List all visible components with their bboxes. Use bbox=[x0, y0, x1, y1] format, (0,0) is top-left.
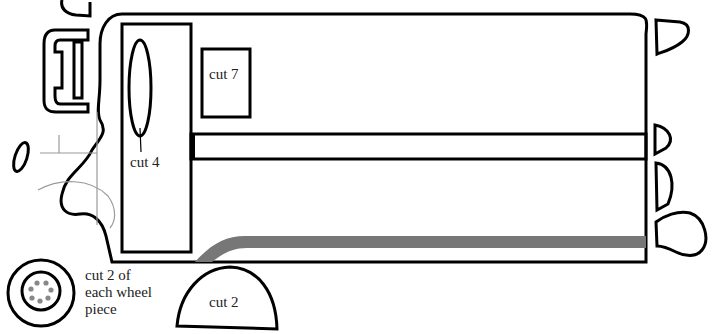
bus-body bbox=[61, 14, 647, 262]
rear-light-mid1 bbox=[655, 125, 670, 154]
label-wheel-note-1: cut 2 of bbox=[85, 267, 131, 284]
rear-light-bottom bbox=[656, 212, 706, 255]
rear-light-top bbox=[656, 20, 689, 54]
label-cut-7: cut 7 bbox=[209, 66, 239, 83]
rear-light-mid2 bbox=[656, 163, 672, 210]
label-wheel-note-2: each wheel bbox=[85, 284, 152, 301]
oval-window bbox=[129, 40, 151, 136]
side-bar-end bbox=[191, 134, 195, 159]
wheel bbox=[8, 260, 74, 326]
oval-leader-line bbox=[140, 128, 141, 152]
label-cut-2: cut 2 bbox=[209, 294, 239, 311]
lug-dots bbox=[28, 280, 53, 303]
label-wheel-note-3: piece bbox=[85, 301, 117, 318]
grey-stripe bbox=[195, 236, 646, 262]
side-bar bbox=[191, 134, 646, 159]
square-window bbox=[202, 49, 250, 117]
grille bbox=[44, 30, 88, 112]
mirror-top-piece bbox=[62, 0, 90, 16]
label-cut-4: cut 4 bbox=[130, 154, 160, 171]
rear-lights bbox=[655, 20, 706, 256]
side-mirror bbox=[11, 141, 32, 173]
